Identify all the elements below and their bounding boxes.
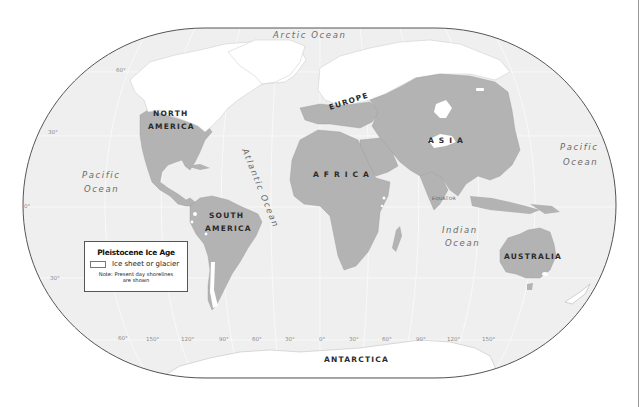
lon-label: 90° (416, 336, 426, 342)
lat-60s-label: 60° (118, 335, 128, 341)
lat-60n-label: 60° (116, 67, 126, 73)
north-america-label-2: AMERICA (148, 122, 195, 131)
lat-30s-label: 30° (50, 275, 60, 281)
arctic-ocean-label: Arctic Ocean (272, 30, 346, 40)
north-america-label-1: NORTH (153, 109, 188, 118)
siberia-ice-spot (476, 88, 484, 91)
lon-label: 30° (285, 336, 295, 342)
legend-note-line-2: are shown (85, 278, 187, 284)
page-edge-divider (638, 0, 639, 407)
legend-title: Pleistocene Ice Age (85, 248, 187, 257)
lon-label: 60° (252, 336, 262, 342)
lon-label: 150° (482, 336, 495, 342)
lon-label: 120° (447, 336, 460, 342)
pacific-ocean-west-label-1: Pacific (82, 170, 121, 180)
legend-note: Note: Present day shorelines are shown (85, 272, 187, 283)
legend-item-ice-sheet: Ice sheet or glacier (90, 260, 187, 268)
andes-ice-north (193, 212, 197, 216)
lon-label: 60° (382, 336, 392, 342)
kilimanjaro-ice (383, 197, 386, 200)
australia-ice-spot (542, 272, 548, 276)
pacific-ocean-east-label-1: Pacific (560, 142, 599, 152)
indian-ocean-label-2: Ocean (445, 238, 480, 248)
antarctica-label: ANTARCTICA (324, 355, 389, 364)
ruwenzori-ice (381, 205, 383, 207)
legend-item-label: Ice sheet or glacier (112, 260, 179, 268)
lat-0-label: 0° (24, 203, 30, 209)
ice-sheet-swatch-icon (90, 261, 106, 268)
pacific-ocean-east-label-2: Ocean (563, 157, 598, 167)
lon-label: 120° (181, 336, 194, 342)
world-map: Arctic Ocean Pacific Ocean Pacific Ocean… (0, 0, 642, 407)
lat-30n-label: 30° (48, 129, 58, 135)
tasmania-land (527, 283, 533, 290)
lon-label: 150° (146, 336, 159, 342)
australia-label: AUSTRALIA (504, 252, 562, 261)
south-america-label-1: SOUTH (209, 211, 244, 220)
lon-label: 90° (219, 336, 229, 342)
indian-ocean-label-1: Indian (442, 225, 478, 235)
south-america-label-2: AMERICA (205, 224, 252, 233)
asia-label: A S I A (428, 136, 464, 145)
equator-label: EQUATOR (432, 196, 456, 201)
africa-label: A F R I C A (313, 170, 370, 179)
lon-label: 0° (319, 336, 325, 342)
andes-ice-spot (191, 221, 194, 224)
pacific-ocean-west-label-2: Ocean (84, 184, 119, 194)
andes-ice-spot (205, 233, 208, 236)
map-legend: Pleistocene Ice Age Ice sheet or glacier… (84, 241, 188, 292)
lon-label: 30° (349, 336, 359, 342)
